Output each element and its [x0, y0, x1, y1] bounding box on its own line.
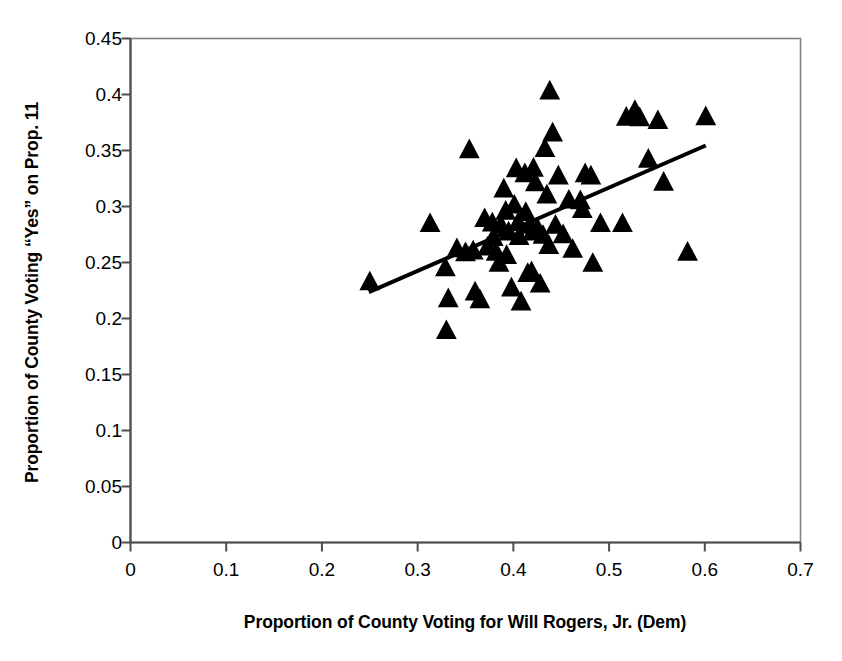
data-point-marker [638, 148, 659, 168]
data-point-marker [542, 122, 563, 142]
data-point-marker [436, 319, 457, 339]
data-point-marker [653, 171, 674, 191]
axis-ticks [122, 39, 801, 552]
plot-area [0, 0, 842, 661]
data-point-marker [548, 165, 569, 185]
data-points [359, 80, 716, 339]
data-point-marker [493, 178, 514, 198]
data-point-marker [420, 212, 441, 232]
data-point-marker [647, 109, 668, 129]
data-point-marker [582, 252, 603, 272]
data-point-marker [695, 105, 716, 125]
plot-frame [131, 39, 801, 543]
data-point-marker [612, 212, 633, 232]
data-point-marker [677, 241, 698, 261]
data-point-marker [459, 139, 480, 159]
data-point-marker [438, 287, 459, 307]
scatter-plot-figure: Proportion of County Voting “Yes” on Pro… [0, 0, 842, 661]
data-point-marker [539, 80, 560, 100]
data-point-marker [590, 212, 611, 232]
